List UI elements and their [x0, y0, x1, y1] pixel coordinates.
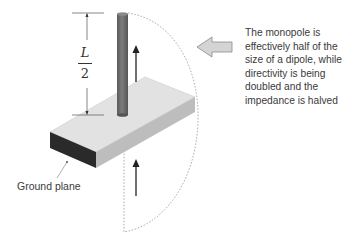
caption-line: doubled and the [245, 80, 355, 94]
caption-line: directivity is being [245, 67, 355, 81]
length-denominator: 2 [78, 67, 92, 81]
caption-line: size of a dipole, while [245, 53, 355, 67]
half-length-label: L 2 [78, 46, 92, 81]
caption-line: impedance is halved [245, 94, 355, 108]
left-block-arrow-icon [197, 37, 232, 57]
current-up-arrow-lower [133, 159, 140, 196]
current-up-arrow-upper [133, 45, 140, 82]
caption-line: effectively half of the [245, 40, 355, 54]
ground-plane-label: Ground plane [17, 180, 81, 192]
explanation-caption: The monopole is effectively half of the … [245, 26, 355, 108]
monopole-rod [117, 12, 128, 117]
ground-plane-leader-line [57, 162, 67, 178]
fraction-bar [78, 63, 92, 64]
length-numerator: L [78, 46, 92, 60]
caption-line: The monopole is [245, 26, 355, 40]
